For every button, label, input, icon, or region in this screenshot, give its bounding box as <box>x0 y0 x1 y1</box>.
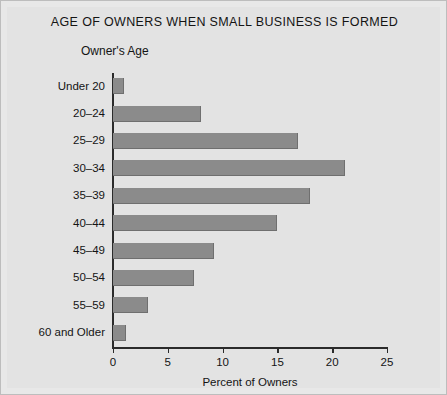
bar-row: 55–59 <box>113 292 387 319</box>
bar-row: 30–34 <box>113 155 387 182</box>
x-tick <box>387 347 388 353</box>
bar-row: 50–54 <box>113 265 387 292</box>
x-tick-label: 0 <box>110 356 116 368</box>
x-tick <box>332 347 333 353</box>
category-label: 20–24 <box>73 107 105 119</box>
x-tick-label: 5 <box>165 356 171 368</box>
category-label: 25–29 <box>73 134 105 146</box>
plot-area: Under 2020–2425–2930–3435–3940–4445–4950… <box>113 73 387 347</box>
category-label: 40–44 <box>73 217 105 229</box>
chart-figure: AGE OF OWNERS WHEN SMALL BUSINESS IS FOR… <box>0 0 447 395</box>
bar <box>113 133 298 149</box>
x-axis-title: Percent of Owners <box>113 376 387 388</box>
x-tick-label: 20 <box>326 356 339 368</box>
bar-row: 35–39 <box>113 183 387 210</box>
bar-row: 60 and Older <box>113 320 387 347</box>
x-tick <box>223 347 224 353</box>
bar <box>113 325 126 341</box>
bar-row: 20–24 <box>113 100 387 127</box>
bar <box>113 297 148 313</box>
category-label: 35–39 <box>73 189 105 201</box>
x-tick <box>168 347 169 353</box>
category-label: 30–34 <box>73 162 105 174</box>
bar-row: Under 20 <box>113 73 387 100</box>
x-tick <box>113 347 114 353</box>
category-label: 45–49 <box>73 244 105 256</box>
x-tick-label: 15 <box>271 356 284 368</box>
category-label: 55–59 <box>73 299 105 311</box>
bar <box>113 188 310 204</box>
x-axis-line <box>112 347 388 349</box>
bar <box>113 78 124 94</box>
x-tick-label: 10 <box>216 356 229 368</box>
bar <box>113 106 201 122</box>
category-label: 50–54 <box>73 271 105 283</box>
bar <box>113 160 345 176</box>
x-tick-label: 25 <box>381 356 394 368</box>
category-label: Under 20 <box>58 80 105 92</box>
bar-row: 45–49 <box>113 237 387 264</box>
y-axis-title: Owner's Age <box>81 44 149 58</box>
bar-row: 40–44 <box>113 210 387 237</box>
bar <box>113 215 277 231</box>
bar <box>113 270 194 286</box>
x-tick <box>277 347 278 353</box>
page-title: AGE OF OWNERS WHEN SMALL BUSINESS IS FOR… <box>1 15 447 29</box>
category-label: 60 and Older <box>39 326 106 338</box>
bar <box>113 243 214 259</box>
bar-row: 25–29 <box>113 128 387 155</box>
